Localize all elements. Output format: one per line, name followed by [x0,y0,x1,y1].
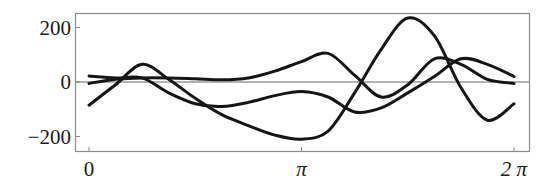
curves-group [89,18,514,140]
y-tick-label: 200 [40,16,72,40]
y-tick-label: 0 [61,70,72,94]
y-tick-label: −200 [28,125,71,149]
x-axis: 0π2 π [84,147,528,181]
line-chart: 2000−200 0π2 π [0,0,550,185]
x-tick-label: 0 [84,157,95,181]
x-tick-label: π [296,157,307,181]
x-tick-label: 2 π [501,157,528,181]
y-axis: 2000−200 [28,16,80,149]
